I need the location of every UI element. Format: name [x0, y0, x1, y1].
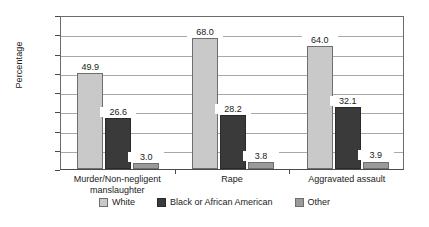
bar-chart: Percentage 80.070.060.050.040.030.020.01…	[0, 0, 429, 227]
legend-label: White	[112, 197, 135, 207]
category-axis-label: Aggravated assault	[289, 174, 404, 185]
bar-value-label: 28.2	[215, 104, 251, 114]
legend-label: Other	[308, 197, 331, 207]
bar	[307, 46, 333, 169]
gridline	[61, 36, 403, 37]
bar-value-label: 49.9	[72, 62, 108, 72]
legend-item[interactable]: Black or African American	[157, 197, 273, 207]
bar-value-label: 26.6	[100, 107, 136, 117]
gridline	[61, 75, 403, 76]
gridline	[61, 94, 403, 95]
chart-legend: WhiteBlack or African AmericanOther	[0, 197, 429, 207]
category-axis-label-line: Aggravated assault	[289, 174, 404, 185]
legend-swatch-icon	[99, 198, 108, 207]
y-axis-tick-mark	[55, 170, 60, 171]
legend-item[interactable]: Other	[295, 197, 331, 207]
bar	[248, 162, 274, 169]
bar	[220, 115, 246, 169]
gridline	[61, 56, 403, 57]
bar-value-label: 32.1	[330, 96, 366, 106]
legend-label: Black or African American	[170, 197, 273, 207]
category-axis-label-line: Murder/Non-negligent	[60, 174, 175, 185]
category-axis-label-line: Rape	[175, 174, 290, 185]
legend-swatch-icon	[295, 198, 304, 207]
legend-swatch-icon	[157, 198, 166, 207]
y-axis-title: Percentage	[14, 10, 24, 120]
bar-value-label: 64.0	[302, 35, 338, 45]
legend-item[interactable]: White	[99, 197, 135, 207]
category-axis-label: Rape	[175, 174, 290, 185]
bar-value-label: 3.9	[358, 150, 394, 160]
plot-area	[60, 16, 404, 170]
bar-value-label: 3.8	[243, 151, 279, 161]
bar-value-label: 3.0	[128, 152, 164, 162]
category-axis-label: Murder/Non-negligentmanslaughter	[60, 174, 175, 196]
bar	[77, 73, 103, 169]
bar-value-label: 68.0	[187, 27, 223, 37]
category-axis-label-line: manslaughter	[60, 185, 175, 196]
bar	[363, 162, 389, 170]
bar	[133, 163, 159, 169]
